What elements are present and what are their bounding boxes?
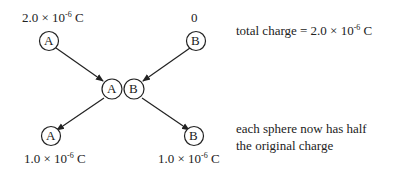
arrow-b-to-contact [143,48,190,81]
arrow-contact-to-b [142,98,189,130]
total-charge-note: total charge = 2.0 × 10-6 C [236,23,372,39]
arrow-a-to-contact [56,48,103,81]
initial-charge-b: 0 [191,10,198,25]
half-charge-note-line1: each sphere now has half [236,121,367,137]
sphere-a-contact-label: A [107,81,116,96]
arrow-contact-to-a [57,98,104,130]
final-charge-a: 1.0 × 10-6 C [24,151,86,166]
final-charge-b: 1.0 × 10-6 C [158,151,220,166]
sphere-b-final-label: B [189,128,198,143]
sphere-a-initial-label: A [44,33,53,48]
sphere-a-final-label: A [46,128,55,143]
initial-charge-a: 2.0 × 10-6 C [22,10,84,25]
charge-sharing-diagram: A B A B A B 2.0 × 10-6 C 0 1.0 × 10-6 C … [0,0,402,177]
sphere-b-contact-label: B [129,81,138,96]
sphere-b-initial-label: B [191,33,200,48]
half-charge-note-line2: the original charge [236,138,333,154]
